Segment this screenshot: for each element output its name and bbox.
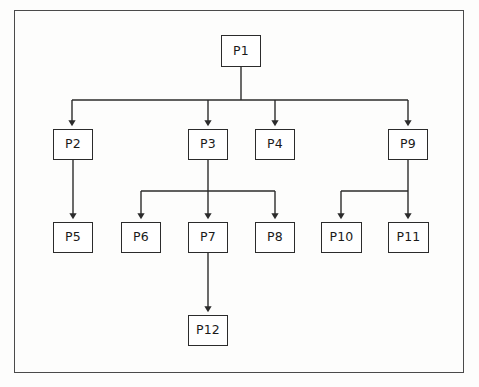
- node-p7[interactable]: P7: [188, 222, 228, 253]
- node-p1[interactable]: P1: [221, 35, 261, 67]
- node-p2[interactable]: P2: [53, 129, 93, 160]
- node-p4[interactable]: P4: [255, 129, 295, 160]
- node-p9[interactable]: P9: [388, 129, 428, 160]
- node-p3[interactable]: P3: [188, 129, 228, 160]
- node-p7-label: P7: [200, 231, 216, 244]
- node-p12[interactable]: P12: [188, 315, 228, 346]
- node-p6-label: P6: [133, 231, 149, 244]
- node-p10[interactable]: P10: [321, 222, 362, 253]
- node-p5-label: P5: [65, 231, 81, 244]
- node-p9-label: P9: [400, 138, 416, 151]
- edge-p9-bus: [341, 160, 408, 217]
- node-p2-label: P2: [65, 138, 81, 151]
- node-p11[interactable]: P11: [388, 222, 429, 253]
- node-p8-label: P8: [267, 231, 283, 244]
- node-p10-label: P10: [329, 231, 353, 244]
- node-p6[interactable]: P6: [121, 222, 161, 253]
- edge-p1-bus: [72, 67, 408, 124]
- node-p5[interactable]: P5: [53, 222, 93, 253]
- diagram-canvas: P1 P2 P3 P4 P9 P5 P6 P7 P8 P10 P11 P12: [0, 0, 479, 387]
- node-p4-label: P4: [267, 138, 283, 151]
- edge-p3-bus: [141, 160, 275, 217]
- node-p3-label: P3: [200, 138, 216, 151]
- node-p1-label: P1: [233, 44, 249, 57]
- node-p12-label: P12: [196, 324, 220, 337]
- node-p8[interactable]: P8: [255, 222, 295, 253]
- node-p11-label: P11: [396, 231, 420, 244]
